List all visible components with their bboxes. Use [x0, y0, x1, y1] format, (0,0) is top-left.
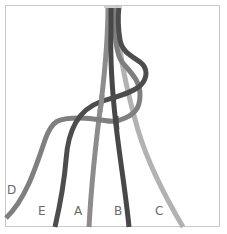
- label-c: C: [155, 205, 163, 217]
- label-d: D: [7, 184, 16, 196]
- label-a: A: [74, 205, 82, 217]
- strand-a-over: [100, 95, 102, 112]
- strand-b-over: [116, 116, 117, 130]
- strands-canvas: [0, 0, 227, 234]
- bundle-top: [104, 6, 122, 8]
- label-e: E: [38, 205, 46, 217]
- label-b: B: [114, 205, 122, 217]
